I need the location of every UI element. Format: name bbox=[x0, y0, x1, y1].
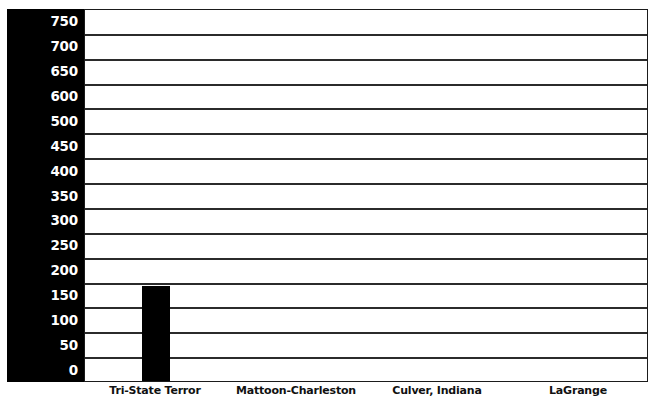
x-axis-tick-label: LaGrange bbox=[549, 384, 607, 398]
bar-chart: 7507006506005004504003503002502001501005… bbox=[0, 0, 656, 401]
gridline bbox=[85, 34, 647, 36]
y-axis-tick-label: 300 bbox=[10, 213, 78, 227]
gridline bbox=[85, 357, 647, 359]
gridline bbox=[85, 283, 647, 285]
gridline bbox=[85, 133, 647, 135]
y-axis-tick-label: 700 bbox=[10, 39, 78, 53]
gridline bbox=[85, 108, 647, 110]
gridline bbox=[85, 84, 647, 86]
x-axis-tick-label: Culver, Indiana bbox=[392, 384, 481, 398]
gridline bbox=[85, 208, 647, 210]
y-axis-tick-label: 750 bbox=[10, 14, 78, 28]
y-axis-tick-label: 250 bbox=[10, 238, 78, 252]
bar bbox=[142, 286, 170, 381]
x-axis-tick-label: Tri-State Terror bbox=[109, 384, 200, 398]
gridline bbox=[85, 307, 647, 309]
y-axis: 7507006506005004504003503002502001501005… bbox=[7, 9, 84, 382]
gridline bbox=[85, 332, 647, 334]
x-axis-tick-label: Mattoon-Charleston bbox=[236, 384, 356, 398]
y-axis-tick-label: 200 bbox=[10, 263, 78, 277]
y-axis-tick-label: 400 bbox=[10, 164, 78, 178]
gridline bbox=[85, 183, 647, 185]
gridline bbox=[85, 233, 647, 235]
y-axis-tick-label: 350 bbox=[10, 189, 78, 203]
y-axis-tick-label: 0 bbox=[10, 363, 78, 377]
gridline bbox=[85, 258, 647, 260]
y-axis-tick-label: 50 bbox=[10, 338, 78, 352]
y-axis-tick-label: 650 bbox=[10, 64, 78, 78]
y-axis-tick-label: 500 bbox=[10, 114, 78, 128]
y-axis-tick-label: 600 bbox=[10, 89, 78, 103]
y-axis-tick-label: 100 bbox=[10, 313, 78, 327]
gridline bbox=[85, 158, 647, 160]
y-axis-tick-label: 150 bbox=[10, 288, 78, 302]
y-axis-tick-label: 450 bbox=[10, 139, 78, 153]
bars-layer bbox=[85, 10, 647, 381]
gridline bbox=[85, 59, 647, 61]
x-axis: Tri-State TerrorMattoon-CharlestonCulver… bbox=[84, 384, 648, 401]
plot-area bbox=[84, 9, 648, 382]
